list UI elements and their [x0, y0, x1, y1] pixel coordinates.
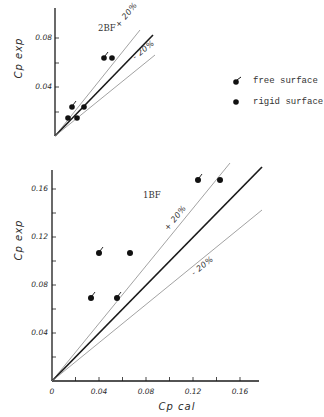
free-surface-point [69, 101, 76, 110]
bottom-x-axis-title: Cp cal [159, 401, 196, 412]
bottom-minus-20-line [52, 210, 262, 381]
top-minus-20-label: - 20% [131, 38, 157, 61]
bottom-y-tick-label: 0.16 [31, 184, 48, 193]
top-y-tick-label: 0.04 [35, 82, 52, 91]
top-y-axis-title: Cp exp [13, 38, 24, 79]
figure-canvas: 0.04 0.08 Cp exp 2BF + 20% - 20% [0, 0, 324, 417]
legend-label: free surface [253, 76, 318, 86]
bottom-x-tick-label: 0.16 [232, 387, 249, 396]
free-surface-marker-icon [230, 74, 244, 88]
rigid-surface-point [81, 104, 87, 110]
bottom-plus-20-line [52, 163, 230, 381]
bottom-x-tick-label: 0.04 [91, 387, 108, 396]
rigid-surface-point [217, 177, 223, 183]
top-minus-20-line [55, 55, 155, 136]
free-surface-point [101, 52, 108, 61]
free-surface-point [96, 247, 103, 256]
rigid-surface-marker-icon [230, 95, 244, 109]
rigid-surface-point [74, 115, 80, 121]
free-surface-point [88, 292, 95, 301]
top-y-tick-label: 0.08 [35, 33, 52, 42]
legend-item-free-surface: free surface [230, 74, 318, 88]
bottom-y-tick-label: 0.12 [31, 232, 48, 241]
bottom-y-axis-title: Cp exp [13, 220, 24, 261]
top-plus-20-label: + 20% [114, 1, 140, 30]
bottom-x-tick-label: 0.08 [138, 387, 155, 396]
bottom-y-tick-label: 0.04 [31, 328, 48, 337]
legend-item-rigid-surface: rigid surface [230, 95, 323, 109]
bottom-y-tick-label: 0.08 [31, 280, 48, 289]
top-chart: 0.04 0.08 Cp exp 2BF + 20% - 20% [13, 1, 156, 136]
rigid-surface-point [127, 250, 133, 256]
bottom-panel-label: 1BF [143, 190, 161, 200]
bottom-x-tick-label: 0 [50, 387, 55, 396]
bottom-x-tick-label: 0.12 [185, 387, 202, 396]
bottom-chart: 0 0.04 0.08 0.12 0.16 0.04 0.08 0.12 0.1… [13, 163, 262, 412]
free-surface-point [114, 292, 121, 301]
free-surface-point [195, 174, 202, 183]
top-data-points [65, 52, 115, 121]
top-panel-label: 2BF [98, 23, 116, 33]
rigid-surface-point [65, 115, 71, 121]
bottom-plus-20-label: + 20% [163, 204, 189, 233]
legend-label: rigid surface [253, 97, 323, 107]
rigid-surface-point [109, 55, 115, 61]
